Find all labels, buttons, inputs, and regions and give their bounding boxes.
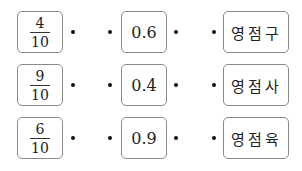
fraction: 9 10 <box>30 69 50 102</box>
numerator: 4 <box>36 16 45 32</box>
numerator: 6 <box>36 122 45 138</box>
denominator: 10 <box>31 86 49 102</box>
match-row-3: 6 10 0.9 영점육 <box>0 117 302 161</box>
denominator: 10 <box>31 33 49 49</box>
decimal-card[interactable]: 0.4 <box>121 64 167 106</box>
word-card[interactable]: 영점육 <box>223 117 289 159</box>
fraction-card[interactable]: 6 10 <box>17 117 63 159</box>
decimal-value: 0.9 <box>131 129 156 148</box>
fraction: 4 10 <box>30 16 50 49</box>
connect-dot-decimal-right[interactable] <box>174 30 178 34</box>
fraction-card[interactable]: 4 10 <box>17 11 63 53</box>
connect-dot-word-left[interactable] <box>212 136 216 140</box>
word-value: 영점사 <box>231 75 282 96</box>
match-row-1: 4 10 0.6 영점구 <box>0 11 302 55</box>
decimal-card[interactable]: 0.9 <box>121 117 167 159</box>
connect-dot-decimal-left[interactable] <box>108 136 112 140</box>
numerator: 9 <box>36 69 45 85</box>
fraction-card[interactable]: 9 10 <box>17 64 63 106</box>
denominator: 10 <box>31 139 49 155</box>
decimal-value: 0.6 <box>131 23 156 42</box>
connect-dot-decimal-left[interactable] <box>108 30 112 34</box>
decimal-value: 0.4 <box>131 76 156 95</box>
connect-dot-word-left[interactable] <box>212 83 216 87</box>
connect-dot-fraction-right[interactable] <box>71 30 75 34</box>
connect-dot-decimal-left[interactable] <box>108 83 112 87</box>
connect-dot-decimal-right[interactable] <box>174 136 178 140</box>
decimal-card[interactable]: 0.6 <box>121 11 167 53</box>
word-value: 영점육 <box>231 128 282 149</box>
word-card[interactable]: 영점사 <box>223 64 289 106</box>
connect-dot-fraction-right[interactable] <box>71 136 75 140</box>
connect-dot-word-left[interactable] <box>212 30 216 34</box>
connect-dot-decimal-right[interactable] <box>174 83 178 87</box>
match-row-2: 9 10 0.4 영점사 <box>0 64 302 108</box>
word-card[interactable]: 영점구 <box>223 11 289 53</box>
fraction: 6 10 <box>30 122 50 155</box>
connect-dot-fraction-right[interactable] <box>71 83 75 87</box>
word-value: 영점구 <box>231 22 282 43</box>
